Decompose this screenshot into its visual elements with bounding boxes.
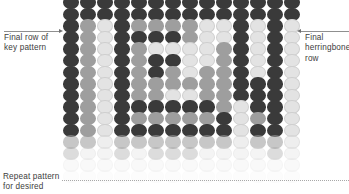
stitch-grid bbox=[63, 0, 299, 186]
leader-line-bottom-dotted bbox=[62, 180, 349, 181]
stitch-cell bbox=[114, 170, 130, 183]
leader-arrow-left-icon bbox=[59, 29, 63, 33]
stitch-cell bbox=[267, 170, 283, 183]
annotation-label-final-key-row: Final row of key pattern bbox=[4, 33, 60, 54]
stitch-cell bbox=[233, 170, 249, 183]
stitch-cell bbox=[284, 170, 300, 183]
stitch-cell bbox=[216, 170, 232, 183]
stitch-cell bbox=[63, 170, 79, 183]
annotation-label-final-herringbone-row: Final herringbone row bbox=[305, 33, 349, 64]
diagram-canvas: Final row of key pattern Final herringbo… bbox=[0, 0, 349, 194]
leader-line-left bbox=[4, 31, 61, 32]
leader-line-right bbox=[300, 31, 349, 32]
stitch-cell bbox=[131, 170, 147, 183]
stitch-cell bbox=[97, 170, 113, 183]
leader-arrow-right-icon bbox=[297, 29, 301, 33]
annotation-label-repeat-pattern: Repeat pattern for desired bbox=[3, 172, 61, 193]
stitch-cell bbox=[199, 170, 215, 183]
stitch-cell bbox=[250, 170, 266, 183]
stitch-cell bbox=[80, 170, 96, 183]
stitch-cell bbox=[165, 170, 181, 183]
stitch-cell bbox=[182, 170, 198, 183]
stitch-cell bbox=[148, 170, 164, 183]
